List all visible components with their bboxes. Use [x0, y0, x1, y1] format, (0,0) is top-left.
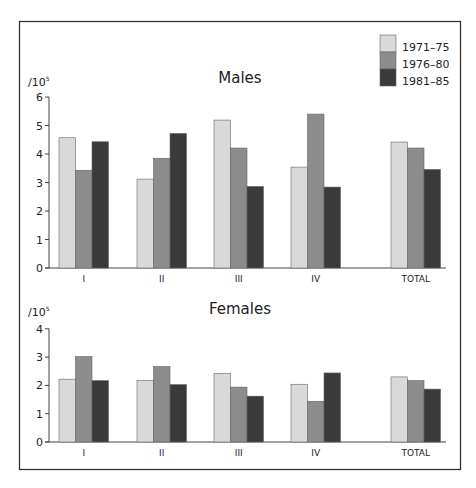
males-category-label: II [159, 274, 164, 284]
females-bar-total-0 [391, 377, 408, 442]
legend: 1971–75 1976–80 1981–85 [380, 35, 450, 88]
females-bar-i-1 [76, 357, 93, 442]
males-bar-iii-0 [214, 120, 231, 268]
chart-canvas: 1971–75 1976–80 1981–85 Males /105 01234… [0, 0, 476, 488]
males-title: Males [218, 69, 262, 87]
females-bar-ii-0 [137, 381, 154, 442]
females-bar-iii-0 [214, 374, 231, 442]
females-y-tick-label: 0 [36, 436, 43, 449]
females-bar-iii-1 [231, 387, 248, 442]
males-category-label: III [235, 274, 243, 284]
females-bar-ii-1 [154, 366, 171, 442]
males-bar-iv-2 [324, 187, 341, 268]
males-bar-ii-2 [170, 133, 187, 268]
chart-figure: 1971–75 1976–80 1981–85 Males /105 01234… [0, 0, 476, 488]
legend-swatch-1976-80 [380, 52, 396, 69]
females-category-label: I [82, 448, 85, 458]
females-bar-i-0 [59, 379, 76, 442]
males-y-tick-label: 3 [36, 177, 43, 190]
females-category-label: IV [311, 448, 321, 458]
males-bar-ii-0 [137, 179, 154, 268]
males-bar-iii-2 [247, 186, 264, 268]
females-category-label: TOTAL [400, 448, 430, 458]
males-unit-label: /105 [28, 75, 50, 89]
females-bar-iv-0 [291, 384, 308, 442]
females-bar-ii-2 [170, 385, 187, 442]
females-category-label: III [235, 448, 243, 458]
females-bar-iii-2 [247, 396, 264, 442]
legend-swatch-1971-75 [380, 35, 396, 52]
females-panel: Females /105 01234IIIIIIIVTOTAL [28, 300, 446, 458]
males-bar-i-2 [92, 142, 109, 268]
males-y-tick-label: 1 [36, 234, 43, 247]
males-bar-i-1 [76, 170, 93, 268]
legend-label-1971-75: 1971–75 [402, 41, 450, 54]
males-bar-iv-1 [308, 114, 325, 268]
legend-label-1976-80: 1976–80 [402, 58, 450, 71]
males-category-label: TOTAL [400, 274, 430, 284]
males-bar-total-0 [391, 142, 408, 268]
females-bar-total-2 [424, 389, 441, 442]
males-bar-total-1 [408, 148, 425, 268]
females-title: Females [209, 300, 271, 318]
males-y-tick-label: 6 [36, 91, 43, 104]
males-bar-i-0 [59, 138, 76, 268]
legend-swatch-1981-85 [380, 69, 396, 86]
females-y-tick-label: 2 [36, 379, 43, 392]
males-bar-iii-1 [231, 148, 248, 268]
males-y-tick-label: 2 [36, 205, 43, 218]
females-bar-total-1 [408, 381, 425, 442]
females-unit-label: /105 [28, 305, 50, 319]
males-category-label: IV [311, 274, 321, 284]
males-bar-iv-0 [291, 167, 308, 268]
females-y-tick-label: 3 [36, 351, 43, 364]
males-bar-total-2 [424, 169, 441, 268]
legend-label-1981-85: 1981–85 [402, 75, 450, 88]
females-y-tick-label: 4 [36, 323, 43, 336]
males-bar-ii-1 [154, 158, 171, 268]
males-category-label: I [82, 274, 85, 284]
males-y-tick-label: 4 [36, 148, 43, 161]
females-bar-iv-1 [308, 401, 325, 442]
females-bar-i-2 [92, 381, 109, 442]
males-y-tick-label: 5 [36, 120, 43, 133]
females-y-tick-label: 1 [36, 408, 43, 421]
females-bar-iv-2 [324, 373, 341, 442]
females-category-label: II [159, 448, 164, 458]
males-y-tick-label: 0 [36, 262, 43, 275]
males-panel: Males /105 0123456IIIIIIIVTOTAL [28, 69, 446, 284]
